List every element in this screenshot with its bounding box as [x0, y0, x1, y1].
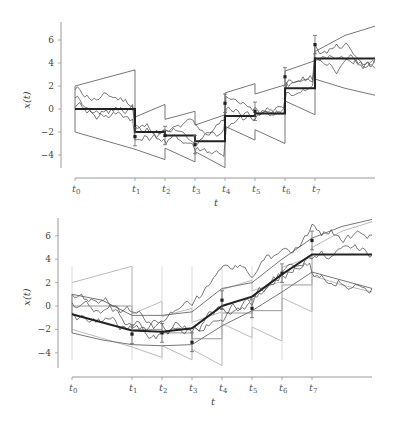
- x-axis-label: t: [214, 197, 219, 208]
- x-axis-label: t: [211, 396, 216, 407]
- observation-point: [220, 299, 223, 302]
- bottom-panel: 6420−2−4x(t)t0t1t2t3t4t5t6t7t: [21, 218, 372, 407]
- y-tick-label: 4: [45, 254, 51, 264]
- x-tick-label: t5: [252, 183, 261, 196]
- x-tick-label: t1: [132, 183, 141, 196]
- x-tick-label: t2: [162, 183, 171, 196]
- top-panel: 6420−2−4x(t)t0t1t2t3t4t5t6t7t: [21, 22, 375, 208]
- x-tick-label: t5: [249, 382, 258, 395]
- x-tick-label: t6: [282, 183, 291, 196]
- observation-point: [280, 272, 283, 275]
- x-tick-label: t1: [129, 382, 138, 395]
- x-tick-label: t3: [192, 183, 201, 196]
- y-tick-label: 2: [48, 81, 54, 91]
- observation-point: [253, 110, 256, 113]
- y-tick-label: −2: [38, 324, 51, 334]
- y-tick-label: 2: [45, 278, 51, 288]
- x-tick-label: t4: [219, 382, 228, 395]
- observation-point: [283, 75, 286, 78]
- chart-figure: 6420−2−4x(t)t0t1t2t3t4t5t6t7t 6420−2−4x(…: [0, 0, 395, 426]
- observation-point: [190, 341, 193, 344]
- x-tick-label: t4: [222, 183, 231, 196]
- x-tick-label: t7: [312, 183, 321, 196]
- observation-point: [163, 134, 166, 137]
- x-tick-label: t7: [309, 382, 318, 395]
- y-tick-label: 0: [48, 104, 54, 114]
- observation-point: [313, 43, 316, 46]
- observation-point: [130, 332, 133, 335]
- observation-point: [250, 307, 253, 310]
- observation-point: [223, 102, 226, 105]
- observation-point: [193, 143, 196, 146]
- x-tick-label: t6: [279, 382, 288, 395]
- observation-point: [133, 135, 136, 138]
- x-tick-label: t0: [69, 382, 78, 395]
- y-tick-label: 6: [45, 231, 51, 241]
- y-tick-label: −2: [41, 127, 54, 137]
- observation-point: [160, 331, 163, 334]
- y-tick-label: −4: [38, 348, 52, 358]
- x-tick-label: t0: [72, 183, 81, 196]
- y-tick-label: −4: [41, 150, 55, 160]
- y-tick-label: 6: [48, 35, 54, 45]
- observation-point: [310, 239, 313, 242]
- x-tick-label: t3: [189, 382, 198, 395]
- y-axis-label: x(t): [21, 91, 32, 109]
- y-tick-label: 0: [45, 301, 51, 311]
- y-tick-label: 4: [48, 58, 54, 68]
- x-tick-label: t2: [159, 382, 168, 395]
- y-axis-label: x(t): [21, 288, 32, 306]
